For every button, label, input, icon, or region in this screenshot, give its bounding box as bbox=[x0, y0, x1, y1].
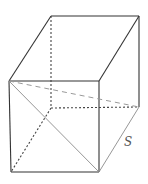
front-face-diagonal bbox=[9, 81, 99, 172]
edge-label-s: S bbox=[124, 135, 132, 149]
space-diagonal bbox=[9, 81, 139, 107]
hidden-back-bottom-edge bbox=[51, 107, 139, 108]
cube-diagram: S bbox=[0, 0, 148, 184]
top-left-edge bbox=[9, 16, 51, 81]
top-right-edge bbox=[99, 16, 139, 81]
front-left-edge bbox=[9, 81, 11, 172]
bottom-right-edge bbox=[99, 107, 139, 172]
